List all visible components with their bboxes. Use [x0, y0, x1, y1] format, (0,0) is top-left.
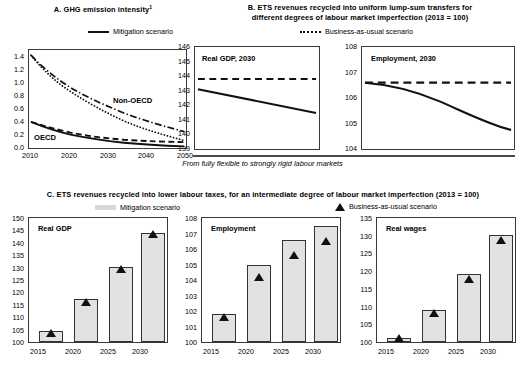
panel-c-legend-label-0: Mitigation scenario [120, 203, 180, 212]
panel-c-legend-label-1: Business-as-usual scenario [349, 202, 437, 211]
panel-c-gdp-ytick-120: 120 [0, 289, 24, 296]
panel-c-wages-xtick-2020: 2020 [407, 348, 435, 355]
panel-a-ytick-0.6: 0.6 [2, 105, 24, 112]
panel-c-legend-bau: Business-as-usual scenario [335, 202, 437, 211]
panel-b-caption: From fully flexible to strongly rigid la… [0, 159, 525, 168]
panel-b-axis-rule [193, 155, 515, 157]
panel-c-gdp-xtick-2020: 2020 [59, 348, 87, 355]
bar-swatch-icon [95, 205, 116, 210]
triangle-icon [335, 203, 345, 211]
panel-c-real-gdp: 150 145 140 135 130 125 120 115 110 105 … [0, 215, 175, 375]
bar-real-gdp-2025 [109, 267, 133, 342]
panel-b-emp-ytick-108: 108 [335, 43, 357, 50]
panel-c-gdp-ytick-110: 110 [0, 314, 24, 321]
panel-a-title-footnote: 1 [149, 4, 152, 10]
line-mitigation-real-gdp [198, 89, 316, 113]
panel-c-gdp-label: Real GDP [38, 224, 72, 233]
panel-c-wages-ytick-110: 110 [348, 304, 372, 311]
bar-real-gdp-2030 [141, 233, 165, 342]
bar-real-wages-2030 [489, 235, 513, 342]
panel-b-gdp-ytick-146: 146 [168, 43, 190, 50]
line-mitigation-employment [365, 83, 511, 130]
panel-b-gdp-ytick-145: 145 [168, 58, 190, 65]
panel-a-legend: Mitigation scenario [88, 27, 173, 36]
panel-a-ytick-0.2: 0.2 [2, 131, 24, 138]
panel-c-legend-mitigation: Mitigation scenario [95, 203, 180, 212]
panel-c-emp-xtick-2015: 2015 [197, 348, 225, 355]
panel-c-wages-ytick-130: 130 [348, 233, 372, 240]
panel-b-gdp-ytick-140: 140 [168, 130, 190, 137]
triangle-employment-2030 [321, 237, 331, 245]
panel-c-title: C. ETS revenues recycled into lower labo… [8, 190, 518, 200]
dotted-line-icon [300, 31, 321, 33]
panel-c-emp-ytick-102: 102 [173, 308, 197, 315]
panel-b-title-line2: different degrees of labour market imper… [200, 13, 520, 23]
panel-a-label-oecd: OECD [34, 133, 56, 142]
panel-c-gdp-plot-area [28, 217, 168, 343]
panel-c-wages-ytick-100: 100 [348, 339, 372, 346]
panel-a-title-text: A. GHG emission intensity [54, 5, 149, 14]
triangle-real-gdp-2025 [116, 265, 126, 273]
panel-b-legend-label-0: Business-as-usual scenario [325, 27, 413, 36]
panel-c-gdp-ytick-105: 105 [0, 327, 24, 334]
panel-c-emp-ytick-104: 104 [173, 277, 197, 284]
panel-c-emp-ytick-105: 105 [173, 262, 197, 269]
triangle-real-wages-2025 [464, 275, 474, 283]
panel-c-emp-xtick-2020: 2020 [232, 348, 260, 355]
panel-c-emp-xtick-2025: 2025 [267, 348, 295, 355]
panel-a-legend-label-0: Mitigation scenario [113, 27, 173, 36]
panel-c-emp-ytick-103: 103 [173, 293, 197, 300]
panel-a-ytick-1.2: 1.2 [2, 66, 24, 73]
triangle-employment-2015 [219, 313, 229, 321]
panel-b-gdp-ytick-143: 143 [168, 87, 190, 94]
panel-c-wages-plot-area [376, 217, 516, 343]
panel-c-gdp-ytick-145: 145 [0, 227, 24, 234]
panel-c-wages-xtick-2030: 2030 [474, 348, 502, 355]
panel-a-ytick-1.0: 1.0 [2, 79, 24, 86]
panel-c-wages-ytick-125: 125 [348, 250, 372, 257]
panel-c-emp-ytick-100: 100 [173, 339, 197, 346]
panel-b-emp-ytick-107: 107 [335, 69, 357, 76]
panel-c-gdp-ytick-150: 150 [0, 215, 24, 222]
panel-a: 1.4 1.2 1.0 0.8 0.6 0.4 0.2 0.0 Non-OECD… [0, 44, 195, 159]
panel-a-ytick-1.4: 1.4 [2, 53, 24, 60]
bar-real-gdp-2020 [74, 299, 98, 342]
bar-real-wages-2025 [457, 274, 481, 342]
panel-c-gdp-xtick-2025: 2025 [94, 348, 122, 355]
solid-line-icon [88, 31, 109, 33]
panel-c-emp-plot-area [201, 217, 341, 343]
panel-c-wages-xtick-2015: 2015 [372, 348, 400, 355]
panel-a-ytick-0.0: 0.0 [2, 144, 24, 151]
panel-b-emp-ytick-104: 104 [335, 145, 357, 152]
panel-c-wages-ytick-120: 120 [348, 268, 372, 275]
triangle-real-gdp-2015 [46, 329, 56, 337]
panel-c-wages-ytick-135: 135 [348, 215, 372, 222]
panel-b-gdp-ytick-144: 144 [168, 72, 190, 79]
panel-c-employment: 108 107 106 105 104 103 102 101 100 Empl… [173, 215, 348, 375]
panel-c-gdp-ytick-130: 130 [0, 265, 24, 272]
panel-c-emp-ytick-106: 106 [173, 246, 197, 253]
panel-b-emp-label: Employment, 2030 [371, 54, 436, 63]
line-non-oecd-bau [31, 55, 184, 131]
panel-c-wages-ytick-115: 115 [348, 286, 372, 293]
panel-c-gdp-xtick-2030: 2030 [126, 348, 154, 355]
panel-c-emp-xtick-2030: 2030 [299, 348, 327, 355]
panel-a-title: A. GHG emission intensity1 [8, 4, 198, 15]
panel-a-ytick-0.4: 0.4 [2, 118, 24, 125]
panel-b-real-gdp: 146 145 144 143 142 141 140 139 Real GDP… [168, 40, 328, 152]
panel-c-gdp-ytick-135: 135 [0, 252, 24, 259]
panel-b-emp-ytick-106: 106 [335, 94, 357, 101]
panel-b-title-line1: B. ETS revenues recycled into uniform lu… [200, 3, 520, 13]
triangle-real-wages-2020 [429, 309, 439, 317]
panel-c-gdp-ytick-125: 125 [0, 277, 24, 284]
panel-c-real-wages: 135 130 125 120 115 110 105 100 Real wag… [348, 215, 525, 375]
panel-b-gdp-ytick-139: 139 [168, 145, 190, 152]
triangle-employment-2025 [289, 251, 299, 259]
panel-c-emp-ytick-101: 101 [173, 324, 197, 331]
panel-c-wages-xtick-2025: 2025 [442, 348, 470, 355]
panel-b-gdp-label: Real GDP, 2030 [202, 54, 255, 63]
panel-b-gdp-ytick-142: 142 [168, 101, 190, 108]
panel-c-gdp-ytick-115: 115 [0, 302, 24, 309]
panel-b-legend: Business-as-usual scenario [300, 27, 413, 36]
triangle-real-gdp-2020 [81, 298, 91, 306]
